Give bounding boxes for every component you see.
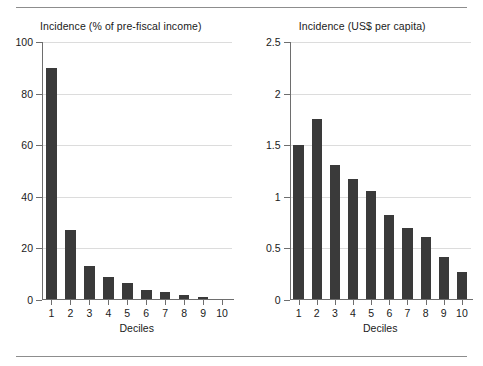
x-axis-tick-label: 5 [368, 307, 374, 319]
bar [65, 230, 76, 300]
x-axis-tick [335, 300, 336, 305]
bar [439, 257, 449, 300]
x-axis-tick [184, 300, 185, 305]
plot-area-right: 00.511.522.5 12345678910 Deciles [290, 42, 472, 300]
y-axis-tick [36, 145, 42, 146]
x-axis-tick-label: 9 [441, 307, 447, 319]
x-axis-tick-label: 1 [49, 307, 55, 319]
x-axis-tick [146, 300, 147, 305]
chart-title-right: Incidence (US$ per capita) [242, 20, 483, 32]
figure-container: Incidence (% of pre-fiscal income) 02040… [0, 0, 483, 366]
bar-series-left [42, 42, 232, 300]
y-axis-tick-label: 2.5 [266, 36, 281, 48]
x-axis-tick [127, 300, 128, 305]
bar [312, 119, 322, 300]
x-axis-tick-label: 1 [296, 307, 302, 319]
bar [46, 68, 57, 300]
bar [366, 191, 376, 300]
x-axis-tick-label: 4 [105, 307, 111, 319]
x-axis-tick-label: 6 [143, 307, 149, 319]
x-axis-tick [426, 300, 427, 305]
bar [84, 266, 95, 300]
x-axis-tick [462, 300, 463, 305]
x-axis-tick-label: 7 [405, 307, 411, 319]
chart-panel-right: Incidence (US$ per capita) 00.511.522.5 … [242, 14, 483, 346]
bar [384, 215, 394, 300]
y-axis-tick [36, 42, 42, 43]
y-axis-tick-label: 100 [15, 36, 33, 48]
bar [348, 179, 358, 300]
bar [293, 145, 303, 300]
bar [330, 165, 340, 300]
y-axis-left [42, 42, 43, 300]
y-axis-tick [284, 42, 290, 43]
x-axis-tick [70, 300, 71, 305]
y-axis-tick [284, 197, 290, 198]
x-axis-tick-label: 4 [350, 307, 356, 319]
x-axis-tick [299, 300, 300, 305]
bar [421, 237, 431, 300]
y-axis-tick [284, 248, 290, 249]
x-axis-label-left: Deciles [42, 322, 232, 334]
x-axis-tick [317, 300, 318, 305]
y-axis-tick [284, 145, 290, 146]
bar [457, 272, 467, 300]
y-axis-tick-label: 60 [21, 139, 33, 151]
y-axis-tick [36, 248, 42, 249]
y-axis-tick-label: 80 [21, 88, 33, 100]
x-axis-tick-label: 10 [456, 307, 468, 319]
x-axis-tick [389, 300, 390, 305]
x-axis-tick [165, 300, 166, 305]
x-axis-tick [89, 300, 90, 305]
x-axis-tick [444, 300, 445, 305]
y-axis-tick-label: 20 [21, 242, 33, 254]
x-axis-tick-label: 3 [332, 307, 338, 319]
x-axis-tick-label: 8 [423, 307, 429, 319]
y-axis-tick-label: 0 [27, 294, 33, 306]
x-axis-tick-label: 6 [386, 307, 392, 319]
y-axis-tick [36, 300, 42, 301]
bar [103, 277, 114, 300]
x-axis-tick-label: 2 [314, 307, 320, 319]
y-axis-tick [284, 94, 290, 95]
x-axis-tick-label: 9 [200, 307, 206, 319]
y-axis-tick [36, 94, 42, 95]
y-axis-tick-label: 0.5 [266, 242, 281, 254]
y-axis-tick-label: 0 [275, 294, 281, 306]
plot-area-left: 020406080100 12345678910 Deciles [42, 42, 232, 300]
y-axis-tick-label: 40 [21, 191, 33, 203]
bar [122, 283, 133, 300]
x-axis-tick [222, 300, 223, 305]
y-axis-tick [284, 300, 290, 301]
x-axis-tick-label: 7 [162, 307, 168, 319]
x-axis-tick-label: 2 [68, 307, 74, 319]
top-rule [16, 7, 467, 8]
x-axis-tick-label: 10 [216, 307, 228, 319]
chart-title-left: Incidence (% of pre-fiscal income) [0, 20, 242, 32]
bar [402, 228, 412, 300]
x-axis-tick [203, 300, 204, 305]
x-axis-tick-label: 8 [181, 307, 187, 319]
x-axis-label-right: Deciles [290, 322, 472, 334]
bottom-rule [16, 356, 467, 357]
x-axis-tick [108, 300, 109, 305]
y-axis-right [290, 42, 291, 300]
y-axis-tick-label: 1 [275, 191, 281, 203]
y-axis-tick-label: 2 [275, 88, 281, 100]
bar-series-right [290, 42, 472, 300]
chart-panel-left: Incidence (% of pre-fiscal income) 02040… [0, 14, 242, 346]
x-axis-tick-label: 5 [124, 307, 130, 319]
chart-panels: Incidence (% of pre-fiscal income) 02040… [0, 14, 483, 346]
x-axis-tick [407, 300, 408, 305]
x-axis-tick-label: 3 [86, 307, 92, 319]
x-axis-tick [51, 300, 52, 305]
y-axis-tick [36, 197, 42, 198]
y-axis-tick-label: 1.5 [266, 139, 281, 151]
x-axis-tick [371, 300, 372, 305]
x-axis-tick [353, 300, 354, 305]
